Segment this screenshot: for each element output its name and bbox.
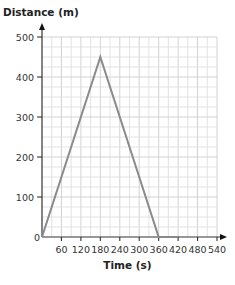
- x-tick-label: 360: [150, 244, 168, 255]
- x-tick-label: 540: [208, 244, 226, 255]
- x-tick-label: 240: [111, 244, 129, 255]
- x-axis-title: Time (s): [0, 259, 235, 271]
- x-tick-label: 420: [169, 244, 187, 255]
- y-tick-label: 100: [16, 192, 34, 203]
- distance-time-chart: 6012018024030036042048054010020030040050…: [0, 0, 235, 285]
- x-tick-label: 120: [72, 244, 90, 255]
- x-tick-label: 180: [91, 244, 109, 255]
- x-tick-label: 480: [188, 244, 206, 255]
- x-axis-arrow-icon: [220, 234, 227, 240]
- y-tick-label: 300: [16, 112, 34, 123]
- axes: [39, 23, 227, 240]
- x-tick-label: 300: [130, 244, 148, 255]
- y-tick-label: 400: [16, 72, 34, 83]
- y-axis-arrow-icon: [39, 23, 45, 30]
- x-tick-label: 60: [55, 244, 67, 255]
- origin-label: 0: [34, 232, 40, 243]
- grid: [42, 37, 217, 237]
- y-tick-label: 500: [16, 32, 34, 43]
- y-tick-label: 200: [16, 152, 34, 163]
